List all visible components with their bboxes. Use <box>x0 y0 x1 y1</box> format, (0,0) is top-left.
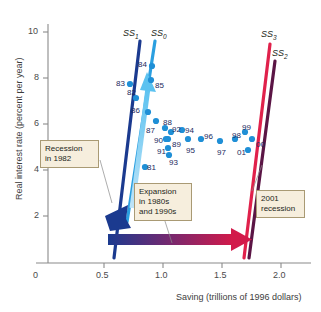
point-label-87: 87 <box>146 126 155 135</box>
x-tick-label-20: 2.0 <box>273 270 286 280</box>
callout-expansion: Expansion in 1980s and 1990s <box>134 183 192 221</box>
point-label-82: 82 <box>127 88 136 97</box>
curve-label-ss1-sub: 1 <box>135 33 139 40</box>
point-label-96: 96 <box>204 132 213 141</box>
data-point-95 <box>185 136 191 142</box>
curve-label-ss3: SS3 <box>261 29 277 41</box>
callout-expansion-line2: in 1980s <box>139 197 187 207</box>
data-point-83 <box>127 81 133 87</box>
callout-recession-1982-line2: in 1982 <box>45 154 94 164</box>
point-label-98: 98 <box>232 131 241 140</box>
expansion-arrow-right-icon <box>108 228 252 251</box>
curve-label-ss2-sub: 2 <box>284 53 288 60</box>
point-label-95: 95 <box>186 146 195 155</box>
callout-recession-2001-line2: recession <box>261 204 300 214</box>
callout-expansion-line3: and 1990s <box>139 207 187 217</box>
data-point-85 <box>148 77 154 83</box>
curve-label-ss1-text: SS <box>123 28 135 38</box>
curve-label-ss3-sub: 3 <box>273 34 277 41</box>
curve-label-ss0-sub: 0 <box>163 33 167 40</box>
point-label-99: 99 <box>242 123 251 132</box>
curve-label-ss0-text: SS <box>151 28 163 38</box>
supply-curve-ss2 <box>249 61 275 258</box>
data-point-87 <box>153 118 159 124</box>
y-tick-label-6: 6 <box>34 118 39 128</box>
curve-label-ss2-text: SS <box>272 48 284 58</box>
data-point-97 <box>217 138 223 144</box>
curve-label-ss2: SS2 <box>272 48 288 60</box>
point-label-94: 94 <box>185 126 194 135</box>
data-point-90 <box>163 136 169 142</box>
point-label-92: 92 <box>172 125 181 134</box>
callout-expansion-line1: Expansion <box>139 187 187 197</box>
curve-label-ss3-text: SS <box>261 29 273 39</box>
y-tick-label-8: 8 <box>34 72 39 82</box>
callout-recession-2001-line1: 2001 <box>261 194 300 204</box>
economics-scatter-chart: 10 8 6 4 2 0 0.5 1.0 1.5 2.0 Real intere… <box>0 0 321 312</box>
data-point-84 <box>149 63 155 69</box>
callout-recession-1982-line1: Recession <box>45 144 94 154</box>
point-label-83: 83 <box>116 79 125 88</box>
point-label-89: 89 <box>172 140 181 149</box>
data-point-86 <box>145 109 151 115</box>
y-tick-label-10: 10 <box>28 26 38 36</box>
point-label-01: 01 <box>237 148 246 157</box>
point-label-97: 97 <box>217 148 226 157</box>
x-tick-label-10: 1.0 <box>155 270 168 280</box>
x-tick-label-15: 1.5 <box>214 270 227 280</box>
y-tick-label-2: 2 <box>34 210 39 220</box>
curve-label-ss1: SS1 <box>123 28 139 40</box>
y-axis-title: Real interest rate (percent per year) <box>14 57 24 200</box>
callout-recession-2001: 2001 recession <box>256 190 305 218</box>
x-axis-title: Saving (trillions of 1996 dollars) <box>176 292 302 302</box>
point-label-81: 81 <box>147 163 156 172</box>
y-tick-label-4: 4 <box>34 164 39 174</box>
data-point-00 <box>249 136 255 142</box>
callout-recession-1982: Recession in 1982 <box>40 140 99 168</box>
point-label-93: 93 <box>169 158 178 167</box>
point-label-84: 84 <box>138 60 147 69</box>
point-label-90: 90 <box>154 136 163 145</box>
point-label-85: 85 <box>155 81 164 90</box>
point-label-88: 88 <box>163 118 172 127</box>
point-label-00: 00 <box>256 140 265 149</box>
point-label-91: 91 <box>157 147 166 156</box>
x-tick-label-05: 0.5 <box>96 270 109 280</box>
x-tick-label-0: 0 <box>33 270 38 280</box>
point-label-86: 86 <box>131 106 140 115</box>
curve-label-ss0: SS0 <box>151 28 167 40</box>
